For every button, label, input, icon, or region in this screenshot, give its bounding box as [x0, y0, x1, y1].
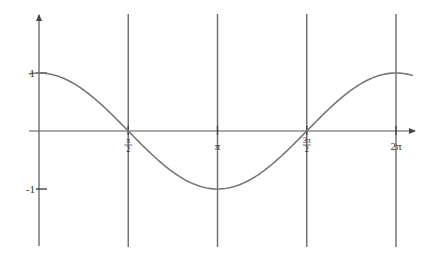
x-tick-label-3: 2π [390, 140, 402, 152]
x-tick-label-2: 3π2 [303, 136, 311, 154]
x-tick-label-0: π2 [124, 136, 132, 154]
svg-text:π: π [126, 136, 130, 145]
y-tick-label-0: 1 [30, 67, 36, 79]
svg-text:2: 2 [126, 145, 130, 154]
x-tick-label-1: π [215, 140, 221, 152]
svg-text:3π: 3π [303, 136, 311, 145]
cosine-plot: π2π3π22π1-1 [0, 0, 436, 262]
svg-text:2: 2 [305, 145, 309, 154]
y-tick-label-1: -1 [26, 183, 35, 195]
